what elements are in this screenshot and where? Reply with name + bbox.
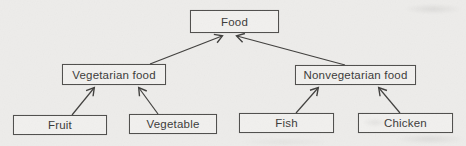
node-nonvegetarian-food: Nonvegetarian food: [295, 65, 416, 85]
edge-nonvegetarian-to-food: [237, 36, 345, 65]
node-vegetarian-food-label: Vegetarian food: [72, 69, 156, 81]
scan-artifact: [395, 134, 465, 144]
node-vegetable-label: Vegetable: [147, 118, 200, 130]
node-fish-label: Fish: [275, 117, 298, 129]
node-chicken-label: Chicken: [384, 117, 427, 129]
node-chicken: Chicken: [358, 113, 453, 133]
edge-fruit-to-vegetarian: [72, 88, 94, 115]
edge-vegetarian-to-food: [150, 36, 222, 64]
edge-fish-to-nonvegetarian: [296, 88, 318, 113]
scan-artifact: [404, 4, 462, 14]
node-fish: Fish: [239, 113, 334, 133]
node-food: Food: [190, 10, 279, 33]
scan-artifact: [240, 138, 330, 146]
node-fruit-label: Fruit: [48, 119, 72, 131]
edge-chicken-to-nonvegetarian: [379, 88, 400, 113]
node-vegetable: Vegetable: [129, 114, 217, 134]
node-nonvegetarian-food-label: Nonvegetarian food: [304, 69, 408, 81]
node-vegetarian-food: Vegetarian food: [62, 64, 166, 85]
edge-vegetable-to-vegetarian: [139, 88, 158, 114]
node-fruit: Fruit: [13, 115, 107, 135]
food-hierarchy-diagram: Food Vegetarian food Nonvegetarian food …: [0, 0, 466, 146]
node-food-label: Food: [221, 16, 248, 28]
